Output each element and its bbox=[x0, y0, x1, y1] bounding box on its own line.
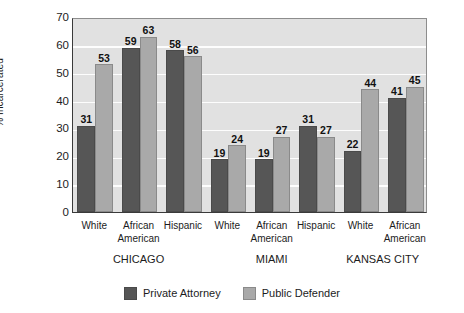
y-axis-tick-10: 10 bbox=[38, 179, 69, 191]
plot-area: 31595819193122415363562427274445 bbox=[72, 18, 427, 213]
bar-value-label: 41 bbox=[391, 86, 403, 97]
legend-label: Private Attorney bbox=[143, 288, 221, 299]
bar-value-label: 56 bbox=[187, 45, 199, 56]
bar-value-label: 31 bbox=[80, 114, 92, 125]
legend-swatch-private bbox=[124, 287, 137, 300]
bar: 45 bbox=[406, 87, 424, 212]
x-axis-category-label: White bbox=[338, 219, 382, 232]
bar-value-label: 27 bbox=[320, 125, 332, 136]
bar-value-label: 44 bbox=[364, 78, 376, 89]
x-axis-category-label: Hispanic bbox=[294, 219, 338, 232]
legend-swatch-public bbox=[243, 287, 256, 300]
x-axis-category-label: AfricanAmerican bbox=[383, 219, 427, 245]
bar: 22 bbox=[344, 151, 362, 212]
x-axis-group-label: MIAMI bbox=[212, 252, 332, 266]
y-axis-tick-20: 20 bbox=[38, 152, 69, 164]
y-axis-tick-40: 40 bbox=[38, 96, 69, 108]
bar-value-label: 31 bbox=[302, 114, 314, 125]
bar: 59 bbox=[122, 48, 140, 212]
bar: 24 bbox=[228, 145, 246, 212]
y-axis-title: % Incarcerated bbox=[0, 0, 12, 199]
y-axis-tick-30: 30 bbox=[38, 124, 69, 136]
y-axis-tick-0: 0 bbox=[38, 207, 69, 219]
bar-value-label: 24 bbox=[231, 134, 243, 145]
bar: 58 bbox=[166, 50, 184, 212]
bar: 19 bbox=[255, 159, 273, 212]
x-axis-category-label: White bbox=[72, 219, 116, 232]
bar-chart: % Incarcerated 010203040506070 315958191… bbox=[0, 0, 464, 313]
x-axis-group-label: KANSAS CITY bbox=[323, 252, 443, 266]
x-axis-category-labels: WhiteAfricanAmericanHispanicWhiteAfrican… bbox=[72, 219, 427, 255]
bar: 41 bbox=[388, 98, 406, 212]
bar-value-label: 27 bbox=[276, 125, 288, 136]
x-axis-category-label: Hispanic bbox=[161, 219, 205, 232]
bar-value-label: 53 bbox=[98, 53, 110, 64]
y-axis-tick-50: 50 bbox=[38, 68, 69, 80]
category-label-line1: African bbox=[256, 220, 287, 231]
category-label-line2: American bbox=[250, 232, 294, 245]
x-axis-group-label: CHICAGO bbox=[79, 252, 199, 266]
category-label-line1: White bbox=[81, 220, 107, 231]
x-axis-category-label: AfricanAmerican bbox=[116, 219, 160, 245]
category-label-line1: White bbox=[215, 220, 241, 231]
category-label-line1: African bbox=[389, 220, 420, 231]
bar-value-label: 59 bbox=[125, 36, 137, 47]
category-label-line1: Hispanic bbox=[164, 220, 202, 231]
bar: 19 bbox=[211, 159, 229, 212]
y-axis-tick-70: 70 bbox=[38, 12, 69, 24]
y-axis-tick-60: 60 bbox=[38, 40, 69, 52]
bar: 63 bbox=[140, 37, 158, 213]
bar: 53 bbox=[95, 64, 113, 212]
bar-value-label: 22 bbox=[347, 139, 359, 150]
bar: 56 bbox=[184, 56, 202, 212]
category-label-line2: American bbox=[383, 232, 427, 245]
bar-value-label: 58 bbox=[169, 39, 181, 50]
category-label-line1: Hispanic bbox=[297, 220, 335, 231]
category-label-line1: White bbox=[348, 220, 374, 231]
bar-value-label: 19 bbox=[258, 148, 270, 159]
bar: 31 bbox=[77, 126, 95, 212]
bar: 44 bbox=[361, 89, 379, 212]
legend-item: Public Defender bbox=[243, 287, 340, 300]
bar-value-label: 19 bbox=[214, 148, 226, 159]
bar-value-label: 45 bbox=[409, 75, 421, 86]
category-label-line2: American bbox=[116, 232, 160, 245]
x-axis-group-labels: CHICAGOMIAMIKANSAS CITY bbox=[72, 252, 427, 272]
legend-item: Private Attorney bbox=[124, 287, 221, 300]
bars-layer: 31595819193122415363562427274445 bbox=[73, 19, 426, 212]
x-axis-category-label: White bbox=[205, 219, 249, 232]
category-label-line1: African bbox=[123, 220, 154, 231]
bar: 27 bbox=[317, 137, 335, 212]
bar: 31 bbox=[299, 126, 317, 212]
x-axis-category-label: AfricanAmerican bbox=[250, 219, 294, 245]
chart-legend: Private AttorneyPublic Defender bbox=[0, 282, 464, 304]
y-axis-tick-labels: 010203040506070 bbox=[38, 18, 69, 213]
legend-label: Public Defender bbox=[262, 288, 340, 299]
bar: 27 bbox=[273, 137, 291, 212]
bar-value-label: 63 bbox=[143, 25, 155, 36]
